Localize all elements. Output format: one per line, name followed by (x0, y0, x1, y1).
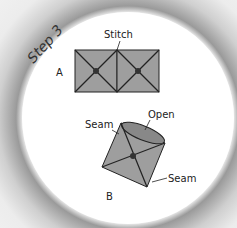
figure-a-label: A (56, 67, 63, 78)
stitch-leader-line (117, 41, 120, 50)
step-title: Step 3 (24, 22, 66, 66)
diagram-canvas: Step 3 A Stitch B Seam Open Seam (0, 0, 237, 228)
seam-left-callout: Seam (85, 119, 113, 130)
figure-a: A Stitch (56, 29, 159, 92)
seam-right-callout: Seam (168, 173, 196, 184)
stitch-callout: Stitch (104, 29, 133, 40)
diagram-svg: Step 3 A Stitch B Seam Open Seam (0, 0, 237, 228)
figure-b: B Seam Open Seam (85, 109, 196, 202)
open-callout: Open (148, 109, 175, 120)
figure-b-label: B (106, 191, 113, 202)
